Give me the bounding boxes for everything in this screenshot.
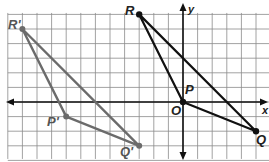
grid-lines [8,13,269,160]
vertex-label-r: R [125,4,134,17]
vertex-label-r-prime: R' [8,18,20,31]
origin-label: O [171,104,181,117]
y-axis-arrow-down-icon [180,152,187,160]
x-axis-arrow-left-icon [6,99,14,106]
vertex-label-p-prime: P' [47,115,59,128]
coordinate-grid [0,0,269,162]
vertex-label-q-prime: Q' [120,145,133,158]
y-axis-arrow-up-icon [180,3,187,11]
vertex-label-q: Q [256,133,266,146]
y-axis-label: y [188,4,194,15]
x-axis-label: x [262,105,268,116]
vertex-label-p: P [185,83,194,96]
